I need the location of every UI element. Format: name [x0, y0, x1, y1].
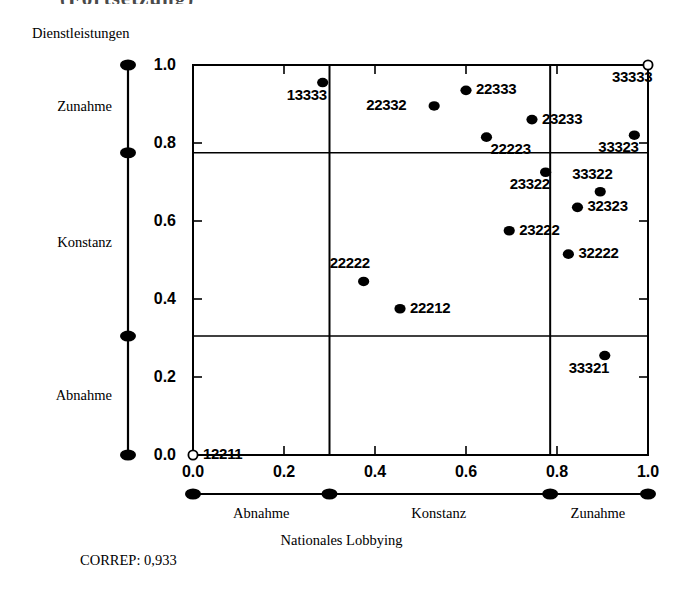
y-category-node	[120, 331, 136, 342]
x-tick-label: 0.6	[446, 464, 486, 480]
x-tick-label: 0.8	[537, 464, 577, 480]
data-point-label: 22223	[490, 141, 530, 156]
data-point-open	[188, 450, 197, 459]
y-category-node	[120, 147, 136, 158]
y-tick-label: 0.0	[142, 447, 176, 463]
data-point-label: 22222	[330, 255, 370, 270]
data-point-label: 32323	[587, 198, 627, 213]
y-tick-label: 1.0	[142, 57, 176, 73]
data-point	[572, 203, 583, 213]
scatter-plot-figure: (Fortsetzung) Dienstleistungen CORREP: 0…	[0, 0, 683, 594]
data-point-label: 33322	[572, 166, 612, 181]
data-point	[563, 249, 574, 259]
y-category-label: Konstanz	[0, 235, 112, 250]
data-point	[595, 187, 606, 197]
x-category-label: Abnahme	[206, 506, 316, 521]
data-point	[429, 101, 440, 111]
data-point	[460, 86, 471, 96]
data-point-label: 23322	[510, 176, 550, 191]
x-category-label: Konstanz	[384, 506, 494, 521]
y-category-node	[120, 60, 136, 71]
data-point	[358, 277, 369, 287]
data-point-label: 33333	[612, 69, 652, 84]
data-point-label: 32222	[578, 245, 618, 260]
data-point	[526, 115, 537, 125]
y-tick-label: 0.8	[142, 135, 176, 151]
x-tick-label: 1.0	[628, 464, 668, 480]
x-tick-label: 0.0	[173, 464, 213, 480]
data-point-label: 22212	[410, 300, 450, 315]
y-tick-label: 0.2	[142, 369, 176, 385]
y-category-node	[120, 450, 136, 461]
data-point-label: 33323	[598, 139, 638, 154]
x-axis-title: Nationales Lobbying	[0, 533, 683, 548]
x-tick-label: 0.2	[264, 464, 304, 480]
x-category-label: Zunahme	[543, 506, 653, 521]
x-category-node	[322, 489, 338, 500]
data-point-label: 22333	[476, 81, 516, 96]
x-category-node	[542, 489, 558, 500]
x-category-node	[185, 489, 201, 500]
y-tick-label: 0.4	[142, 291, 176, 307]
correp-note: CORREP: 0,933	[80, 553, 177, 568]
x-tick-label: 0.4	[355, 464, 395, 480]
data-point-label: 22332	[366, 97, 406, 112]
data-point-label: 12211	[203, 446, 242, 461]
data-point-label: 13333	[287, 87, 327, 102]
data-point	[504, 226, 515, 236]
y-category-label: Abnahme	[0, 388, 112, 403]
data-point	[394, 304, 405, 314]
data-point-label: 23233	[542, 111, 582, 126]
y-tick-label: 0.6	[142, 213, 176, 229]
data-point-label: 33321	[569, 360, 609, 375]
x-category-node	[640, 489, 656, 500]
data-point-label: 23222	[519, 222, 559, 237]
y-category-label: Zunahme	[0, 99, 112, 114]
